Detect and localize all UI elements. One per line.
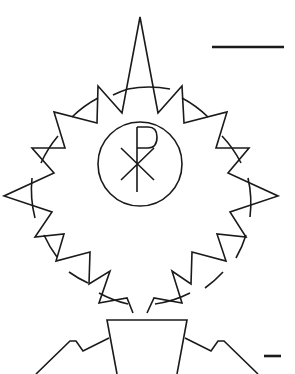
sunburst-spikes (4, 17, 278, 313)
sunburst-emblem (4, 17, 278, 313)
trapezoid-body (107, 320, 187, 374)
left-arm (36, 338, 109, 374)
trapezoid-base (36, 320, 258, 374)
chi-rho-glyph (121, 127, 157, 192)
chi-rho-medallion (98, 122, 182, 206)
line-drawing (0, 0, 295, 374)
diagram-canvas (0, 0, 295, 374)
sunburst-ring (31, 87, 250, 304)
right-arm (185, 338, 258, 374)
medallion-circle (98, 122, 182, 206)
